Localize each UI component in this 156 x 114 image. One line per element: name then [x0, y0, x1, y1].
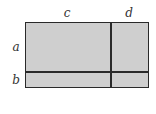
- label-c: c: [64, 7, 71, 19]
- area-model-diagram: c d a b: [0, 0, 156, 114]
- label-a: a: [12, 41, 19, 53]
- label-d: d: [125, 7, 133, 19]
- label-b: b: [12, 74, 20, 86]
- outer-rectangle: [25, 22, 149, 88]
- horizontal-divider: [25, 71, 149, 73]
- vertical-divider: [110, 22, 112, 88]
